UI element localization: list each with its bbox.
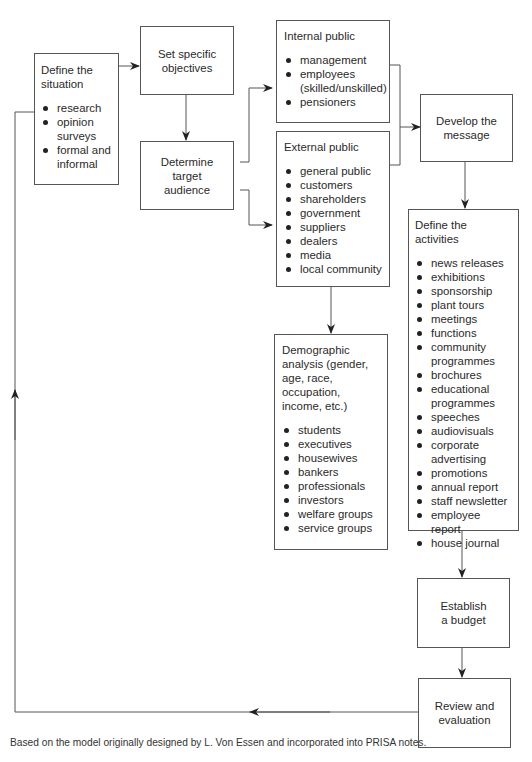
node-target-audience: Determine target audience: [140, 141, 234, 210]
figure-caption: Based on the model originally designed b…: [10, 737, 426, 748]
list-item: management: [284, 53, 382, 67]
list-item: housewives: [282, 451, 380, 465]
list-item: government: [284, 206, 382, 220]
node-title: Set specific: [158, 47, 216, 61]
node-title: Demographic analysis (gender, age, race,…: [282, 343, 380, 413]
list-item: exhibitions: [415, 270, 512, 284]
list-item: dealers: [284, 234, 382, 248]
node-define-situation: Define the situation research opinion su…: [34, 53, 119, 185]
list-item: media: [284, 248, 382, 262]
list-item: general public: [284, 164, 382, 178]
list-item: sponsorship: [415, 284, 512, 298]
node-title: Define the activities: [415, 218, 512, 246]
bullet-list: news releases exhibitions sponsorship pl…: [415, 256, 512, 550]
list-item: suppliers: [284, 220, 382, 234]
node-establish-budget: Establish a budget: [417, 578, 510, 648]
node-external-public: External public general public customers…: [276, 131, 390, 287]
list-item: formal and informal: [41, 143, 112, 171]
list-item: audiovisuals: [415, 424, 512, 438]
list-item: house journal: [415, 536, 512, 550]
node-title: External public: [284, 140, 382, 154]
node-title: target: [172, 169, 201, 183]
list-item: opinion surveys: [41, 115, 112, 143]
node-title: a budget: [441, 613, 485, 627]
node-title: situation: [41, 77, 112, 91]
list-item: educational programmes: [415, 382, 512, 410]
node-title: Review and: [435, 699, 495, 713]
list-item: meetings: [415, 312, 512, 326]
node-title: Internal public: [284, 29, 382, 43]
list-item: plant tours: [415, 298, 512, 312]
list-item: bankers: [282, 465, 380, 479]
bullet-list: research opinion surveys formal and info…: [41, 101, 112, 171]
node-define-activities: Define the activities news releases exhi…: [408, 209, 519, 531]
node-title: message: [443, 128, 489, 142]
list-item: pensioners: [284, 95, 382, 109]
list-item: customers: [284, 178, 382, 192]
list-item: local community: [284, 262, 382, 276]
node-internal-public: Internal public management employees (sk…: [276, 20, 390, 123]
list-item: speeches: [415, 410, 512, 424]
list-item: executives: [282, 437, 380, 451]
node-review-evaluation: Review and evaluation: [418, 678, 511, 748]
node-title: Determine: [161, 155, 214, 169]
list-item: news releases: [415, 256, 512, 270]
node-title: audience: [164, 183, 210, 197]
bullet-list: management employees (skilled/unskilled)…: [284, 53, 382, 109]
list-item: shareholders: [284, 192, 382, 206]
list-item: students: [282, 423, 380, 437]
list-item: professionals: [282, 479, 380, 493]
list-item: investors: [282, 493, 380, 507]
node-title: Define the: [41, 63, 112, 77]
list-item: promotions: [415, 466, 512, 480]
list-item: annual report: [415, 480, 512, 494]
list-item: research: [41, 101, 112, 115]
bullet-list: students executives housewives bankers p…: [282, 423, 380, 535]
list-item: community programmes: [415, 340, 512, 368]
node-title: Develop the: [436, 114, 497, 128]
node-title: Establish: [440, 599, 486, 613]
node-title: objectives: [162, 61, 213, 75]
node-demographic-analysis: Demographic analysis (gender, age, race,…: [274, 334, 388, 550]
node-develop-message: Develop the message: [420, 94, 513, 162]
list-item: employee report: [415, 508, 512, 536]
list-item: employees (skilled/unskilled): [284, 67, 382, 95]
node-set-objectives: Set specific objectives: [140, 26, 234, 95]
list-item: functions: [415, 326, 512, 340]
list-item: corporate advertising: [415, 438, 512, 466]
list-item: welfare groups: [282, 507, 380, 521]
list-item: staff newsletter: [415, 494, 512, 508]
bullet-list: general public customers shareholders go…: [284, 164, 382, 276]
list-item: service groups: [282, 521, 380, 535]
list-item: brochures: [415, 368, 512, 382]
node-title: evaluation: [439, 713, 491, 727]
